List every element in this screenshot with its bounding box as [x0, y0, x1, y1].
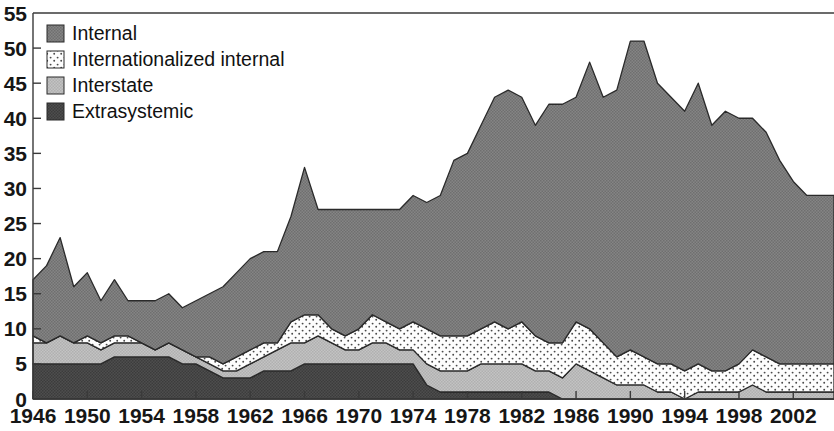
chart-legend: InternalInternationalized internalInters… [47, 22, 284, 122]
legend-swatch-internal [47, 25, 64, 42]
legend-swatch-interstate [47, 77, 64, 94]
x-tick-label: 1954 [118, 404, 165, 427]
y-tick-label: 20 [4, 247, 27, 270]
y-tick-label: 25 [4, 212, 28, 235]
y-tick-label: 5 [15, 352, 27, 375]
y-tick-label: 45 [4, 72, 28, 95]
x-tick-label: 1998 [716, 404, 763, 427]
y-tick-label: 15 [4, 282, 28, 305]
x-tick-label: 1978 [444, 404, 491, 427]
x-tick-label: 1966 [281, 404, 328, 427]
x-tick-label: 1990 [607, 404, 654, 427]
chart-canvas: 0510152025303540455055 19461950195419581… [0, 0, 834, 431]
legend-swatch-extrasystemic [47, 103, 64, 120]
y-tick-label: 50 [4, 37, 27, 60]
x-tick-label: 1958 [173, 404, 220, 427]
x-tick-label: 1994 [661, 404, 708, 427]
stacked-area-chart: 0510152025303540455055 19461950195419581… [0, 0, 834, 431]
x-tick-label: 1974 [390, 404, 437, 427]
legend-label-internal: Internal [72, 22, 137, 44]
legend-swatch-internationalized-internal [47, 51, 64, 68]
y-tick-label: 55 [4, 2, 28, 25]
x-tick-label: 1970 [335, 404, 382, 427]
y-tick-label: 10 [4, 317, 27, 340]
x-tick-label: 2002 [770, 404, 817, 427]
y-tick-label: 30 [4, 177, 27, 200]
x-tick-label: 1982 [498, 404, 545, 427]
x-tick-label: 1986 [553, 404, 600, 427]
legend-label-extrasystemic: Extrasystemic [72, 100, 194, 122]
y-tick-label: 35 [4, 142, 28, 165]
legend-label-internationalized-internal: Internationalized internal [72, 48, 284, 70]
x-tick-label: 1962 [227, 404, 274, 427]
x-tick-label: 1946 [10, 404, 57, 427]
x-tick-label: 1950 [64, 404, 111, 427]
y-tick-label: 40 [4, 107, 27, 130]
legend-label-interstate: Interstate [72, 74, 153, 96]
